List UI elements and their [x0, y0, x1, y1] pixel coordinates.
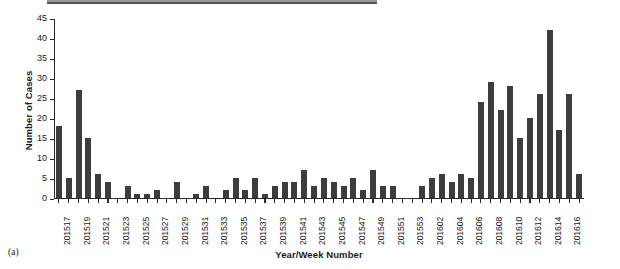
- bar: [193, 194, 199, 198]
- x-tick-label: 201545: [337, 217, 347, 245]
- x-tick: [186, 199, 187, 203]
- bar: [76, 90, 82, 198]
- x-tick: [137, 199, 138, 203]
- x-axis-line: [54, 198, 584, 199]
- y-tick-mark: [50, 19, 54, 20]
- bar: [252, 178, 258, 198]
- x-axis-title: Year/Week Number: [54, 249, 584, 260]
- x-tick: [117, 199, 118, 203]
- x-tick: [206, 199, 207, 203]
- y-tick-mark: [50, 139, 54, 140]
- bar: [341, 186, 347, 198]
- x-tick: [294, 199, 295, 203]
- x-tick: [235, 199, 236, 203]
- x-tick: [579, 199, 580, 203]
- bar: [125, 186, 131, 198]
- y-tick-label: 35: [37, 53, 47, 63]
- x-tick: [569, 199, 570, 203]
- x-tick: [392, 199, 393, 203]
- x-tick: [353, 199, 354, 203]
- bar: [272, 186, 278, 198]
- bar: [488, 82, 494, 198]
- x-axis-tick-labels: 2015172015192015212015232015252015272015…: [54, 206, 584, 248]
- x-tick: [314, 199, 315, 203]
- page-rule-fragment: [47, 2, 377, 4]
- y-tick-label: 20: [37, 113, 47, 123]
- plot-area: 051015202530354045: [54, 19, 584, 199]
- x-tick: [284, 199, 285, 203]
- x-tick: [98, 199, 99, 203]
- bar: [478, 102, 484, 198]
- bar: [311, 186, 317, 198]
- bar: [576, 174, 582, 198]
- y-tick-label: 45: [37, 13, 47, 23]
- y-tick-label: 40: [37, 33, 47, 43]
- x-tick-label: 201539: [278, 217, 288, 245]
- x-tick: [127, 199, 128, 203]
- y-tick-label: 15: [37, 133, 47, 143]
- x-tick: [255, 199, 256, 203]
- bar: [380, 186, 386, 198]
- x-tick: [333, 199, 334, 203]
- x-tick: [107, 199, 108, 203]
- bar: [498, 110, 504, 198]
- x-tick: [363, 199, 364, 203]
- x-tick: [559, 199, 560, 203]
- x-tick-label: 201551: [396, 217, 406, 245]
- bar: [507, 86, 513, 198]
- bar: [331, 182, 337, 198]
- bar: [66, 178, 72, 198]
- x-tick-label: 201549: [376, 217, 386, 245]
- bar: [95, 174, 101, 198]
- bar: [527, 118, 533, 198]
- x-tick-label: 201616: [572, 217, 582, 245]
- x-tick-label: 201519: [82, 217, 92, 245]
- x-tick: [215, 199, 216, 203]
- x-tick-label: 201523: [121, 217, 131, 245]
- bar: [282, 182, 288, 198]
- bar: [174, 182, 180, 198]
- x-tick: [500, 199, 501, 203]
- x-tick: [304, 199, 305, 203]
- bar: [301, 170, 307, 198]
- bar: [468, 178, 474, 198]
- x-tick: [196, 199, 197, 203]
- y-tick-label: 5: [42, 173, 47, 183]
- bar: [547, 30, 553, 198]
- x-tick: [382, 199, 383, 203]
- bar: [419, 186, 425, 198]
- x-tick-label: 201531: [200, 217, 210, 245]
- y-tick-mark: [50, 99, 54, 100]
- x-tick: [520, 199, 521, 203]
- x-tick: [402, 199, 403, 203]
- x-tick: [157, 199, 158, 203]
- bar: [537, 94, 543, 198]
- x-tick-label: 201537: [258, 217, 268, 245]
- x-tick-label: 201535: [239, 217, 249, 245]
- x-tick-label: 201608: [494, 217, 504, 245]
- x-tick: [68, 199, 69, 203]
- x-tick-label: 201543: [317, 217, 327, 245]
- y-tick-label: 0: [42, 193, 47, 203]
- y-tick-label: 10: [37, 153, 47, 163]
- bar: [291, 182, 297, 198]
- x-tick: [323, 199, 324, 203]
- x-tick-label: 201602: [435, 217, 445, 245]
- bar: [517, 138, 523, 198]
- x-tick: [441, 199, 442, 203]
- x-tick: [176, 199, 177, 203]
- x-tick: [471, 199, 472, 203]
- bar: [154, 190, 160, 198]
- bar: [449, 182, 455, 198]
- bar: [458, 174, 464, 198]
- bar: [360, 190, 366, 198]
- y-tick-label: 25: [37, 93, 47, 103]
- x-tick: [147, 199, 148, 203]
- bar: [350, 178, 356, 198]
- bar: [56, 126, 62, 198]
- bar: [370, 170, 376, 198]
- x-tick-label: 201553: [415, 217, 425, 245]
- y-tick-mark: [50, 39, 54, 40]
- x-tick-label: 201541: [298, 217, 308, 245]
- bar: [233, 178, 239, 198]
